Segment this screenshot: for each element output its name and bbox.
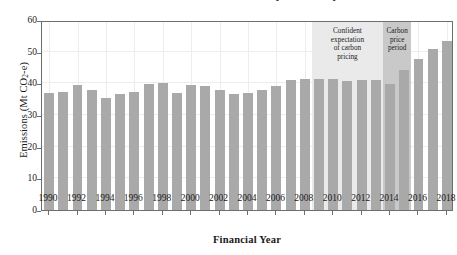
y-tick-label-0: 0 [0, 206, 37, 216]
x-tick-mark-1998 [162, 211, 163, 215]
y-tick-label-10: 10 [0, 174, 37, 184]
y-tick-label-60: 60 [0, 16, 37, 26]
bar-2018 [442, 41, 452, 210]
x-tick-mark-2012 [361, 211, 362, 215]
bar-2010 [328, 79, 338, 210]
x-tick-mark-2010 [332, 211, 333, 215]
bar-2015 [399, 70, 409, 210]
bar-1997 [144, 84, 154, 210]
x-tick-mark-2018 [446, 211, 447, 215]
y-tick-mark-20 [37, 148, 41, 149]
y-tick-mark-60 [37, 21, 41, 22]
x-tick-mark-2006 [275, 211, 276, 215]
bar-2011 [342, 81, 352, 210]
x-tick-mark-1996 [133, 211, 134, 215]
emissions-bar-chart-figure: Emissions have risen since the carbon pr… [0, 0, 457, 255]
x-tick-mark-2004 [247, 211, 248, 215]
bar-2005 [257, 90, 267, 210]
plot-area: Confidentexpectationof carbonpricingCarb… [41, 21, 453, 211]
x-axis-label: Financial Year [41, 234, 453, 245]
bar-1992 [73, 85, 83, 210]
x-tick-mark-2000 [190, 211, 191, 215]
y-tick-mark-50 [37, 53, 41, 54]
x-tick-mark-1994 [105, 211, 106, 215]
y-tick-mark-0 [37, 211, 41, 212]
x-tick-mark-1990 [48, 211, 49, 215]
x-tick-mark-1992 [77, 211, 78, 215]
x-tick-mark-2014 [389, 211, 390, 215]
y-tick-mark-30 [37, 116, 41, 117]
bar-2001 [200, 86, 210, 210]
figure-title-text: Emissions have risen since the carbon pr… [0, 0, 457, 1]
x-tick-mark-2008 [304, 211, 305, 215]
bar-2006 [271, 86, 281, 210]
bar-1998 [158, 83, 168, 210]
bar-2017 [428, 49, 438, 210]
y-tick-mark-10 [37, 179, 41, 180]
x-tick-label-2018: 2018 [426, 193, 457, 203]
bar-2012 [357, 80, 367, 210]
y-tick-label-20: 20 [0, 143, 37, 153]
bar-2014 [385, 84, 395, 210]
y-tick-label-40: 40 [0, 79, 37, 89]
bar-2009 [314, 79, 324, 210]
bar-2007 [286, 80, 296, 210]
bar-series [42, 22, 452, 210]
y-axis-label-subscript: 2 [21, 74, 30, 78]
y-tick-label-50: 50 [0, 48, 37, 58]
x-tick-mark-2016 [417, 211, 418, 215]
y-tick-mark-40 [37, 84, 41, 85]
x-axis-label-text: Financial Year [213, 234, 281, 245]
bar-2002 [215, 90, 225, 210]
bar-2013 [371, 80, 381, 210]
bar-2016 [414, 59, 424, 210]
bar-2008 [300, 79, 310, 210]
y-tick-label-30: 30 [0, 111, 37, 121]
bar-2000 [186, 85, 196, 210]
x-tick-mark-2002 [219, 211, 220, 215]
clipped-figure-title: Emissions have risen since the carbon pr… [0, 0, 457, 12]
